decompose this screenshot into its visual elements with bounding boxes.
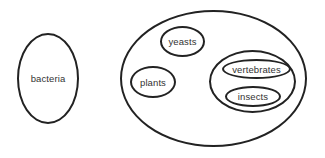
vertebrates-label: vertebrates bbox=[232, 64, 281, 75]
vertebrates-set: vertebrates bbox=[222, 59, 291, 79]
plants-label: plants bbox=[140, 77, 166, 88]
yeasts-label: yeasts bbox=[168, 36, 196, 47]
insects-label: insects bbox=[238, 91, 268, 102]
insects-set: insects bbox=[225, 86, 281, 107]
bacteria-set: bacteria bbox=[17, 33, 79, 124]
plants-set: plants bbox=[130, 66, 176, 98]
yeasts-set: yeasts bbox=[160, 26, 205, 57]
bacteria-label: bacteria bbox=[31, 73, 66, 84]
